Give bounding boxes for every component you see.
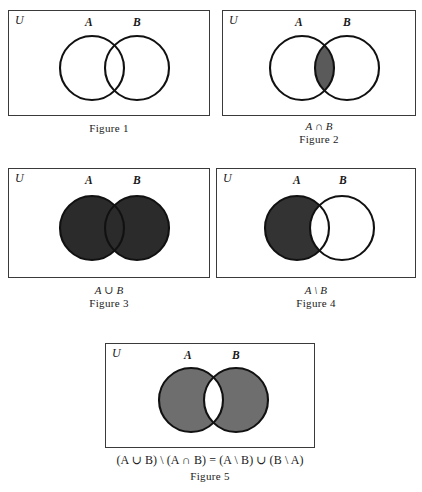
figure-1-caption-name: Figure 1 [89,122,128,134]
figure-4-expression: A \ B [216,284,416,297]
figure-3-expression: A ∪ B [8,284,210,297]
figure-4-caption: A \ B Figure 4 [216,284,416,310]
figure-2-caption-name: Figure 2 [222,133,416,146]
figure-2-caption: A ∩ B Figure 2 [222,120,416,146]
figure-4-caption-name: Figure 4 [216,297,416,310]
figure-1-circle-b [105,36,169,100]
figure-2-universe-box: U A B [222,10,416,116]
figure-1-venn-diagram [9,11,211,117]
figure-3-block: U A B A ∪ B Figure 3 [8,168,210,308]
figure-5-caption: Figure 5 [105,470,315,483]
figure-4-venn-diagram [217,169,417,279]
figure-5-caption-name: Figure 5 [190,470,229,482]
figure-5-universe-box: U A B [105,343,315,448]
figure-2-venn-diagram [223,11,417,117]
figure-2-expression: A ∩ B [222,120,416,133]
figure-5-venn-diagram [106,344,316,449]
figure-4-block: U A B A \ B Figure 4 [216,168,416,308]
figure-4-a-minus-b-shading [217,169,417,279]
figure-5-expression: (A ∪ B) \ (A ∩ B) = (A \ B) ∪ (B \ A) [60,453,360,468]
figure-4-universe-box: U A B [216,168,416,278]
figure-1-caption: Figure 1 [8,122,210,135]
figure-3-caption: A ∪ B Figure 3 [8,284,210,310]
figure-2-block: U A B A ∩ B Figure 2 [222,10,416,150]
figure-1-universe-box: U A B [8,10,210,116]
figure-5-block: U A B (A ∪ [105,343,315,488]
figure-3-venn-diagram [9,169,211,279]
figure-1-block: U A B Figure 1 [8,10,210,138]
figure-3-caption-name: Figure 3 [8,297,210,310]
figure-3-universe-box: U A B [8,168,210,278]
figure-5-formula-text: (A ∪ B) \ (A ∩ B) = (A \ B) ∪ (B \ A) [116,453,303,467]
figure-5-symmetric-difference-shading [106,344,316,449]
